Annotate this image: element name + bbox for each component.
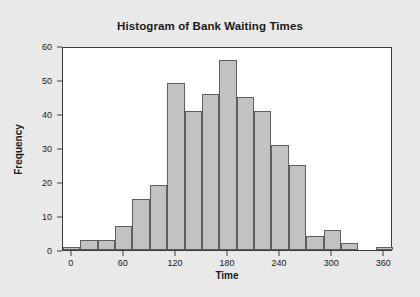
histogram-bar bbox=[63, 247, 80, 250]
histogram-bar bbox=[306, 236, 323, 250]
histogram-bar bbox=[341, 243, 358, 250]
histogram-bar bbox=[185, 111, 202, 250]
x-tick-mark bbox=[174, 251, 175, 256]
y-axis: 0102030405060 bbox=[0, 47, 62, 251]
y-tick-label: 30 bbox=[42, 144, 52, 154]
plot-area bbox=[63, 48, 391, 250]
histogram-bar bbox=[150, 185, 167, 250]
x-tick-label: 120 bbox=[167, 258, 182, 268]
histogram-bar bbox=[289, 165, 306, 250]
histogram-figure: Histogram of Bank Waiting Times Frequenc… bbox=[0, 0, 420, 297]
x-tick-label: 0 bbox=[68, 258, 73, 268]
x-tick-mark bbox=[279, 251, 280, 256]
y-tick-label: 50 bbox=[42, 76, 52, 86]
plot-frame bbox=[62, 47, 392, 251]
histogram-bar bbox=[324, 230, 341, 250]
y-tick-label: 60 bbox=[42, 42, 52, 52]
x-tick-label: 360 bbox=[376, 258, 391, 268]
x-tick-label: 60 bbox=[118, 258, 128, 268]
x-tick-label: 180 bbox=[219, 258, 234, 268]
x-tick-mark bbox=[331, 251, 332, 256]
histogram-bar bbox=[202, 94, 219, 250]
x-tick-label: 300 bbox=[324, 258, 339, 268]
histogram-bar bbox=[167, 83, 184, 250]
histogram-bar bbox=[219, 60, 236, 250]
histogram-bar bbox=[376, 247, 393, 250]
y-tick-label: 40 bbox=[42, 110, 52, 120]
chart-title: Histogram of Bank Waiting Times bbox=[0, 20, 420, 32]
y-tick-label: 10 bbox=[42, 212, 52, 222]
x-axis-title: Time bbox=[62, 270, 392, 281]
y-tick-label: 0 bbox=[47, 246, 52, 256]
histogram-bar bbox=[98, 240, 115, 250]
histogram-bar bbox=[80, 240, 97, 250]
histogram-bar bbox=[271, 145, 288, 250]
histogram-bar bbox=[237, 97, 254, 250]
y-tick-label: 20 bbox=[42, 178, 52, 188]
x-tick-mark bbox=[383, 251, 384, 256]
histogram-bar bbox=[115, 226, 132, 250]
x-tick-mark bbox=[227, 251, 228, 256]
histogram-bar bbox=[132, 199, 149, 250]
x-tick-label: 240 bbox=[272, 258, 287, 268]
x-tick-mark bbox=[122, 251, 123, 256]
x-tick-mark bbox=[70, 251, 71, 256]
histogram-bar bbox=[254, 111, 271, 250]
